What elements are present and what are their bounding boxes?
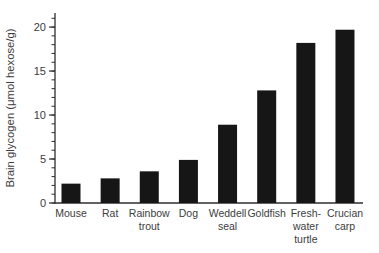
category-label-fresh-water-turtle: water [292, 220, 319, 232]
bar-chart-figure: Brain glycogen (μmol hexose/g) 05101520 … [0, 0, 379, 253]
category-label-weddell-seal: seal [218, 220, 237, 232]
bar-dog [179, 160, 198, 203]
category-label-rat: Rat [102, 207, 118, 219]
category-label-crucian-carp: Crucian [327, 207, 363, 219]
bar-rainbow-trout [140, 171, 159, 203]
bars-group [62, 30, 355, 203]
y-tick-label: 15 [34, 65, 46, 77]
category-label-rainbow-trout: Rainbow [129, 207, 170, 219]
category-label-dog: Dog [179, 207, 198, 219]
category-label-weddell-seal: Weddell [209, 207, 247, 219]
chart-canvas: Brain glycogen (μmol hexose/g) 05101520 … [0, 0, 379, 253]
bar-mouse [62, 184, 81, 203]
bar-goldfish [257, 90, 276, 203]
category-label-crucian-carp: carp [335, 220, 356, 232]
category-label-fresh-water-turtle: turtle [294, 233, 318, 245]
bar-crucian-carp [335, 30, 354, 203]
category-label-goldfish: Goldfish [247, 207, 286, 219]
y-axis-label: Brain glycogen (μmol hexose/g) [4, 28, 16, 187]
y-tick-label: 20 [34, 21, 46, 33]
category-labels-group: MouseRatRainbowtroutDogWeddellsealGoldfi… [55, 207, 363, 245]
y-tick-label: 10 [34, 109, 46, 121]
bar-rat [101, 178, 120, 203]
y-tick-label: 5 [40, 153, 46, 165]
y-tick-label: 0 [40, 197, 46, 209]
category-label-mouse: Mouse [55, 207, 87, 219]
category-label-fresh-water-turtle: Fresh- [291, 207, 322, 219]
bar-fresh-water-turtle [296, 43, 315, 203]
bar-weddell-seal [218, 125, 237, 203]
category-label-rainbow-trout: trout [139, 220, 160, 232]
